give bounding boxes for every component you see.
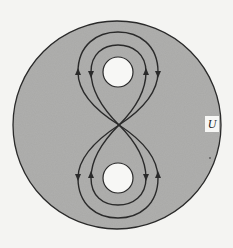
region-label-u: U — [205, 116, 219, 132]
crossing-point — [118, 124, 121, 127]
top-hole — [103, 57, 133, 87]
stray-dot — [209, 157, 211, 159]
region-grain-texture — [14, 22, 220, 228]
bottom-hole — [103, 163, 133, 193]
figure-eight-diagram — [0, 0, 233, 248]
